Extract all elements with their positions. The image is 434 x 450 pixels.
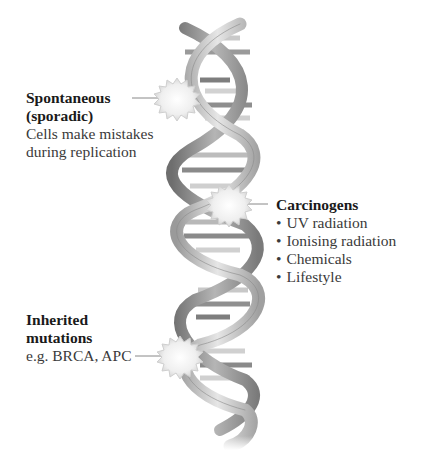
callout-inherited: Inherited mutations e.g. BRCA, APC bbox=[26, 311, 132, 365]
list-item: Ionising radiation bbox=[276, 232, 396, 250]
callout-title: Spontaneous bbox=[26, 89, 153, 107]
callout-description: Cells make mistakes bbox=[26, 125, 153, 143]
callout-carcinogens: Carcinogens UV radiation Ionising radiat… bbox=[276, 196, 396, 286]
callout-description: e.g. BRCA, APC bbox=[26, 347, 132, 365]
list-item: UV radiation bbox=[276, 214, 396, 232]
callout-title: Inherited bbox=[26, 311, 132, 329]
list-item: Chemicals bbox=[276, 250, 396, 268]
callout-title: (sporadic) bbox=[26, 107, 153, 125]
callout-title: Carcinogens bbox=[276, 196, 396, 214]
list-item: Lifestyle bbox=[276, 268, 396, 286]
carcinogen-list: UV radiation Ionising radiation Chemical… bbox=[276, 214, 396, 286]
callout-description: during replication bbox=[26, 143, 153, 161]
callout-title: mutations bbox=[26, 329, 132, 347]
callout-spontaneous: Spontaneous (sporadic) Cells make mistak… bbox=[26, 89, 153, 161]
